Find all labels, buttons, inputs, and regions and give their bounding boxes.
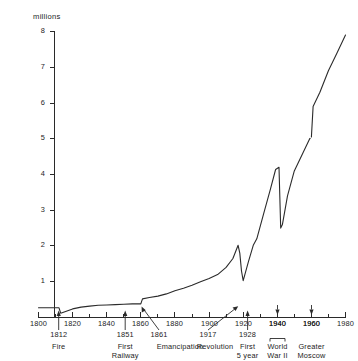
- x-tick-label-1900: 1900: [193, 320, 227, 329]
- y-tick-label-3: 3: [29, 206, 45, 215]
- y-axis-title: millions: [33, 13, 61, 22]
- y-tick-label-4: 4: [29, 170, 45, 179]
- x-tick-label-1980: 1980: [329, 320, 358, 329]
- x-tick-marks: [39, 312, 346, 318]
- y-tick-label-2: 2: [29, 241, 45, 250]
- annotation-year-1917: 1917: [192, 331, 224, 340]
- y-tick-label-5: 5: [29, 134, 45, 143]
- y-tick-label-1: 1: [29, 277, 45, 286]
- x-tick-label-1820: 1820: [56, 320, 90, 329]
- x-tick-label-1800: 1800: [22, 320, 56, 329]
- x-tick-label-1880: 1880: [158, 320, 192, 329]
- annotation-label-railway: Railway: [102, 352, 148, 361]
- x-tick-label-1860: 1860: [124, 320, 158, 329]
- annotation-label-moscow: Moscow: [289, 352, 335, 361]
- annotation-year-1812: 1812: [43, 331, 75, 340]
- annotation-year-1928: 1928: [232, 331, 264, 340]
- y-tick-marks: [50, 32, 55, 282]
- annotation-year-1940: 1940: [262, 320, 294, 329]
- annotation-year-1960: 1960: [296, 320, 328, 329]
- y-tick-label-6: 6: [29, 99, 45, 108]
- y-tick-label-8: 8: [29, 27, 45, 36]
- y-tick-label-7: 7: [29, 63, 45, 72]
- x-tick-label-1840: 1840: [90, 320, 124, 329]
- annotation-year-1861: 1861: [143, 331, 175, 340]
- population-line-tail: [311, 35, 345, 137]
- population-line-main: [39, 139, 310, 313]
- annotation-year-1851: 1851: [109, 331, 141, 340]
- x-tick-label-1920: 1920: [227, 320, 261, 329]
- annotation-label-fire: Fire: [36, 343, 82, 352]
